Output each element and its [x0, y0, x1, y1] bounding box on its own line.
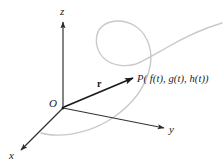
y-axis-label: y: [169, 124, 174, 135]
x-axis: [21, 108, 63, 150]
space-curve-figure: z y x O r P( f(t), g(t), h(t)): [0, 0, 223, 166]
origin-label: O: [49, 98, 57, 109]
vector-r-label: r: [97, 79, 101, 89]
point-p-label: P( f(t), g(t), h(t)): [137, 74, 209, 85]
x-axis-label: x: [9, 150, 14, 161]
origin-point: [62, 107, 65, 110]
y-axis: [63, 108, 164, 128]
z-axis-label: z: [60, 6, 64, 17]
